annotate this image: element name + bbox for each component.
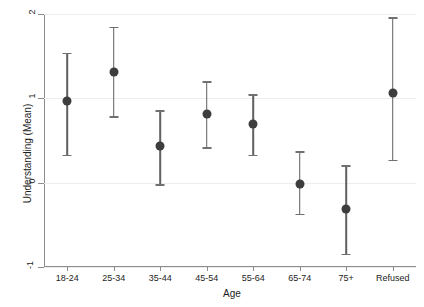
error-bar-cap-lower xyxy=(202,147,211,149)
x-tick-label: 55-64 xyxy=(242,273,265,283)
x-tick-label: Refused xyxy=(376,273,410,283)
x-tick-label: 75+ xyxy=(339,273,354,283)
x-tick-label: 45-54 xyxy=(195,273,218,283)
plot-area xyxy=(44,14,416,267)
x-tick-mark xyxy=(253,266,254,271)
x-tick-mark xyxy=(300,266,301,271)
error-bar-cap-lower xyxy=(249,155,258,157)
error-bar-cap-upper xyxy=(63,53,72,55)
error-bar-cap-upper xyxy=(388,17,397,19)
data-point-marker xyxy=(388,89,397,98)
y-tick-label: 2 xyxy=(0,7,34,17)
data-point-marker xyxy=(342,204,351,213)
x-tick-label: 25-34 xyxy=(102,273,125,283)
data-point-marker xyxy=(295,179,304,188)
x-tick-mark xyxy=(393,266,394,271)
error-bar-cap-upper xyxy=(202,81,211,83)
grid-line xyxy=(44,183,416,184)
y-tick-mark xyxy=(38,14,44,15)
x-tick-mark xyxy=(114,266,115,271)
y-tick-label: 1 xyxy=(0,91,34,101)
y-tick-label-text: 2 xyxy=(26,9,36,14)
y-tick-mark xyxy=(38,183,44,184)
error-bar-cap-upper xyxy=(295,151,304,153)
y-tick-label: -1 xyxy=(0,260,34,270)
error-bar-cap-upper xyxy=(109,27,118,29)
error-bar-cap-lower xyxy=(156,184,165,186)
chart-container: Understanding (Mean) 210-1 18-2425-3435-… xyxy=(0,0,424,307)
data-point-marker xyxy=(63,96,72,105)
error-bar-cap-upper xyxy=(249,94,258,96)
y-tick-mark xyxy=(38,267,44,268)
x-tick-mark xyxy=(207,266,208,271)
x-tick-mark xyxy=(67,266,68,271)
error-bar-cap-upper xyxy=(156,110,165,112)
x-tick-mark xyxy=(160,266,161,271)
y-tick-label-text: 0 xyxy=(26,178,36,183)
data-point-marker xyxy=(109,68,118,77)
data-point-marker xyxy=(202,109,211,118)
error-bar-cap-lower xyxy=(388,160,397,162)
error-bar-cap-upper xyxy=(342,165,351,167)
data-point-marker xyxy=(249,120,258,129)
error-bar-cap-lower xyxy=(63,155,72,157)
x-tick-label: 18-24 xyxy=(56,273,79,283)
y-tick-label: 0 xyxy=(0,176,34,186)
x-tick-mark xyxy=(346,266,347,271)
error-bar-cap-lower xyxy=(295,214,304,216)
y-tick-label-text: 1 xyxy=(26,94,36,99)
y-tick-mark xyxy=(38,98,44,99)
data-point-marker xyxy=(156,142,165,151)
grid-line xyxy=(44,98,416,99)
x-tick-label: 65-74 xyxy=(288,273,311,283)
error-bar-cap-lower xyxy=(109,116,118,118)
x-tick-label: 35-44 xyxy=(149,273,172,283)
x-axis-title: Age xyxy=(44,288,420,299)
grid-line xyxy=(44,267,416,268)
grid-line xyxy=(44,14,416,15)
error-bar-cap-lower xyxy=(342,254,351,256)
y-tick-label-text: -1 xyxy=(25,261,35,269)
